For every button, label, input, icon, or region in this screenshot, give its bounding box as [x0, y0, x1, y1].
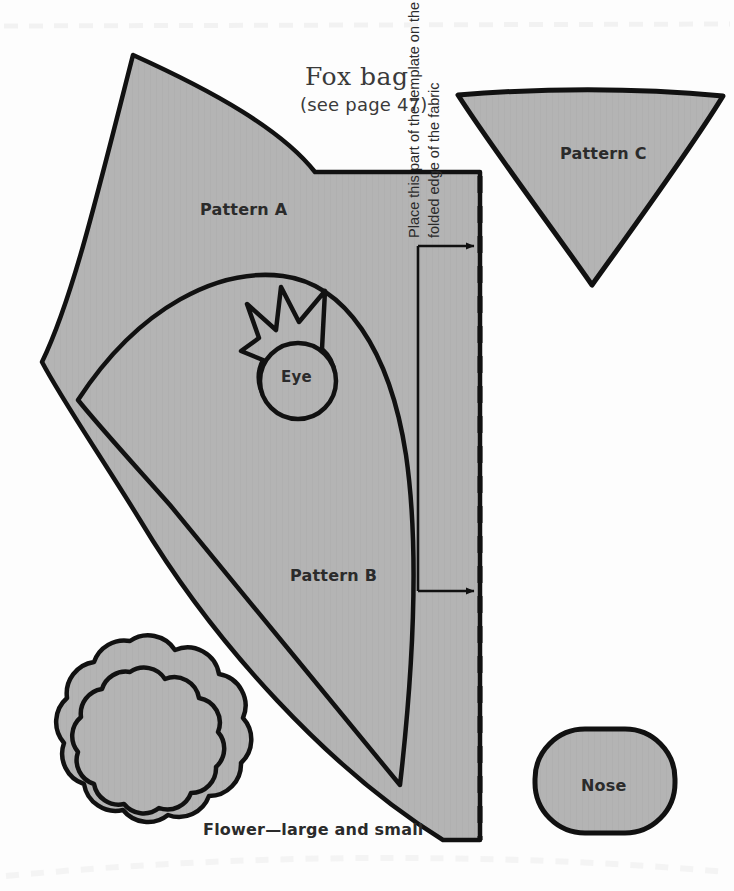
label-flower: Flower—large and small — [203, 820, 424, 839]
page-subtitle: (see page 47) — [0, 94, 734, 115]
page-title-text: Fox bag — [305, 62, 409, 91]
label-nose: Nose — [581, 776, 627, 795]
page-title: Fox bag — [0, 62, 734, 91]
pattern-sheet-page: Fox bag (see page 47) Pattern A Pattern … — [0, 0, 734, 891]
label-pattern-b: Pattern B — [290, 566, 377, 585]
label-eye: Eye — [281, 368, 312, 386]
piece-pattern-c[interactable] — [458, 90, 723, 285]
label-pattern-a: Pattern A — [200, 200, 287, 219]
pattern-template-canvas — [0, 0, 734, 891]
page-subtitle-text: (see page 47) — [300, 94, 427, 115]
label-pattern-c: Pattern C — [560, 144, 647, 163]
scan-artifact-bottom — [6, 858, 728, 876]
scan-artifact-top — [4, 24, 730, 26]
